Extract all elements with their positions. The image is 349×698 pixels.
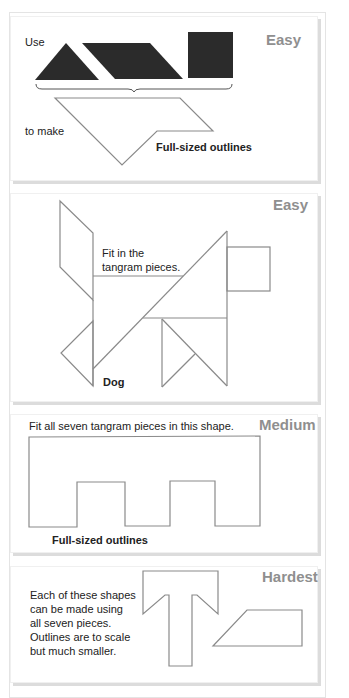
trapezoid-outline xyxy=(213,610,302,646)
description-line: Each of these shapes xyxy=(30,588,136,602)
dog-outline xyxy=(60,201,270,387)
description-line: but much smaller. xyxy=(30,644,136,658)
level-label: Medium xyxy=(259,416,316,433)
instruction-line-2: tangram pieces. xyxy=(102,260,180,274)
level-label: Easy xyxy=(266,31,301,48)
description-line: can be made using xyxy=(30,602,136,616)
outline-note: Full-sized outlines xyxy=(52,533,148,547)
description: Each of these shapes can be made using a… xyxy=(30,588,136,658)
parallelogram-piece xyxy=(82,43,183,79)
level-label: Hardest xyxy=(262,568,318,585)
make-label: to make xyxy=(25,124,64,138)
brace-icon xyxy=(36,84,232,92)
level-label: Easy xyxy=(273,196,308,213)
instruction-line-1: Fit in the xyxy=(102,246,144,260)
outline-note: Full-sized outlines xyxy=(156,140,252,154)
description-line: all seven pieces. xyxy=(30,616,136,630)
square-piece xyxy=(188,32,233,78)
t-shape-outline xyxy=(143,571,218,666)
instruction: Fit all seven tangram pieces in this sha… xyxy=(29,419,234,433)
shape-label: Dog xyxy=(103,375,124,389)
use-label: Use xyxy=(25,35,45,49)
castle-outline xyxy=(29,436,260,527)
description-line: Outlines are to scale xyxy=(30,630,136,644)
outline-shape-1 xyxy=(55,98,213,165)
